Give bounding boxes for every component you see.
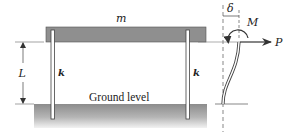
deflection-label: δ <box>227 2 234 15</box>
ground-level-label: Ground level <box>89 91 149 103</box>
stiffness-label-right: k <box>193 67 200 78</box>
beam-mass <box>46 27 206 42</box>
frame-diagram: L m k k Ground level δ M P <box>0 0 299 132</box>
ground <box>34 104 207 128</box>
stiffness-label-left: k <box>58 67 65 78</box>
moment-label: M <box>246 16 259 29</box>
deflected-column <box>223 42 239 104</box>
right-post <box>186 30 190 119</box>
force-label: P <box>274 36 283 49</box>
mass-label: m <box>116 12 126 25</box>
length-label: L <box>18 67 26 80</box>
moment-arc <box>228 30 248 40</box>
left-post <box>51 30 55 119</box>
